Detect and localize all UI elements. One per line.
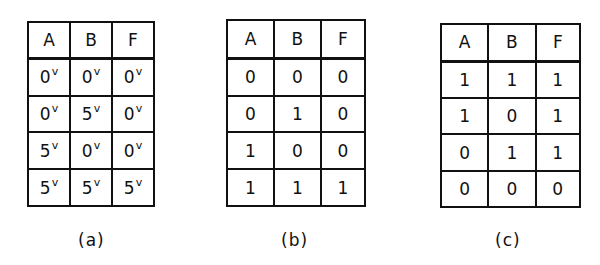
header-b: B xyxy=(274,20,321,58)
table-row: 1 1 1 xyxy=(227,169,365,206)
table-row: 5v 5v 5v xyxy=(28,169,154,206)
cell-value: 1 xyxy=(321,169,365,206)
cell-value: 0 xyxy=(227,58,274,96)
table-row: 0 1 0 xyxy=(227,96,365,133)
table-row: 0v 0v 0v xyxy=(28,58,154,96)
caption-b: (b) xyxy=(281,230,308,250)
table-row: 0 0 0 xyxy=(441,171,580,207)
volt-unit: v xyxy=(52,102,59,115)
truth-table-c-negative-logic: A B F 1 1 1 1 0 1 0 1 1 0 0 0 xyxy=(440,23,581,208)
cell-value: 1 xyxy=(227,169,274,206)
cell-value: 1 xyxy=(536,61,580,98)
truth-table-b-positive-logic: A B F 0 0 0 0 1 0 1 0 0 1 1 1 xyxy=(226,19,366,207)
cell-value: 0 xyxy=(82,67,93,87)
volt-unit: v xyxy=(52,176,59,189)
cell-value: 1 xyxy=(274,169,321,206)
table-row: 0 1 1 xyxy=(441,134,580,170)
table-row: 5v 0v 0v xyxy=(28,132,154,169)
cell-value: 0 xyxy=(488,171,535,207)
cell-value: 0 xyxy=(40,104,51,124)
table-row: 1 0 0 xyxy=(227,132,365,169)
header-a: A xyxy=(28,22,70,58)
volt-unit: v xyxy=(94,65,101,78)
cell-value: 1 xyxy=(488,61,535,98)
cell-value: 0 xyxy=(321,96,365,133)
volt-unit: v xyxy=(136,139,143,152)
volt-unit: v xyxy=(94,139,101,152)
cell-value: 0 xyxy=(274,58,321,96)
cell-value: 0 xyxy=(124,104,135,124)
cell-value: 0 xyxy=(82,141,93,161)
cell-value: 0 xyxy=(124,141,135,161)
cell-value: 0 xyxy=(274,132,321,169)
cell-value: 0 xyxy=(441,134,488,170)
header-b: B xyxy=(70,22,112,58)
header-f: F xyxy=(112,22,154,58)
cell-value: 1 xyxy=(488,134,535,170)
cell-value: 1 xyxy=(227,132,274,169)
cell-value: 0 xyxy=(40,67,51,87)
caption-a: (a) xyxy=(78,230,105,250)
table-row: 0 0 0 xyxy=(227,58,365,96)
cell-value: 1 xyxy=(274,96,321,133)
volt-unit: v xyxy=(94,176,101,189)
volt-unit: v xyxy=(136,65,143,78)
table-row: 1 1 1 xyxy=(441,61,580,98)
volt-unit: v xyxy=(94,102,101,115)
volt-unit: v xyxy=(136,102,143,115)
cell-value: 0 xyxy=(321,58,365,96)
cell-value: 0 xyxy=(321,132,365,169)
cell-value: 5 xyxy=(124,178,135,198)
volt-unit: v xyxy=(136,176,143,189)
truth-table-a-voltages: A B F 0v 0v 0v 0v 5v 0v 5v 0v 0v 5v 5v 5… xyxy=(27,21,155,207)
volt-unit: v xyxy=(52,139,59,152)
header-f: F xyxy=(321,20,365,58)
cell-value: 5 xyxy=(82,178,93,198)
header-f: F xyxy=(536,24,580,61)
table-row: 1 0 1 xyxy=(441,98,580,134)
cell-value: 5 xyxy=(40,141,51,161)
cell-value: 5 xyxy=(82,104,93,124)
cell-value: 5 xyxy=(40,178,51,198)
cell-value: 0 xyxy=(488,98,535,134)
volt-unit: v xyxy=(52,65,59,78)
cell-value: 0 xyxy=(441,171,488,207)
header-b: B xyxy=(488,24,535,61)
cell-value: 1 xyxy=(441,61,488,98)
header-a: A xyxy=(227,20,274,58)
caption-c: (c) xyxy=(495,230,521,250)
cell-value: 1 xyxy=(536,134,580,170)
table-row: 0v 5v 0v xyxy=(28,96,154,133)
cell-value: 0 xyxy=(227,96,274,133)
header-a: A xyxy=(441,24,488,61)
cell-value: 0 xyxy=(536,171,580,207)
cell-value: 0 xyxy=(124,67,135,87)
cell-value: 1 xyxy=(536,98,580,134)
cell-value: 1 xyxy=(441,98,488,134)
